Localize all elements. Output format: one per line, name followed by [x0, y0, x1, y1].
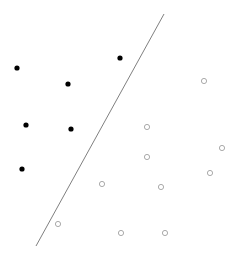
- separator-line: [36, 14, 164, 246]
- hollow-point: [55, 221, 60, 226]
- filled-point: [14, 65, 19, 70]
- hollow-point: [99, 181, 104, 186]
- filled-point: [65, 81, 70, 86]
- hollow-point: [207, 170, 212, 175]
- hollow-point: [144, 124, 149, 129]
- hollow-point: [201, 78, 206, 83]
- scatter-diagram: [0, 0, 234, 261]
- hollow-point: [118, 230, 123, 235]
- filled-points-group: [14, 55, 122, 171]
- hollow-point: [162, 230, 167, 235]
- hollow-point: [158, 184, 163, 189]
- hollow-point: [144, 154, 149, 159]
- hollow-point: [219, 145, 224, 150]
- filled-point: [117, 55, 122, 60]
- filled-point: [19, 166, 24, 171]
- filled-point: [23, 122, 28, 127]
- hollow-points-group: [55, 78, 224, 235]
- filled-point: [68, 126, 73, 131]
